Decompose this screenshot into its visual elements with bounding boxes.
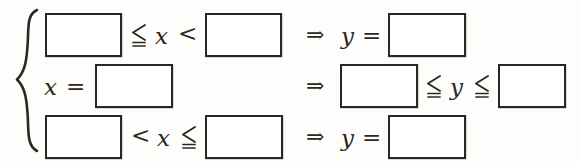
- row1-implies-arrow: ⇒: [306, 24, 324, 46]
- row1-variable-y: y: [341, 25, 354, 48]
- row3-relation-right: [180, 124, 197, 150]
- row1-relation-left: [130, 22, 147, 48]
- row2-x-value-blank[interactable]: [95, 64, 173, 108]
- row2-relation-left: [425, 73, 442, 99]
- row2-relation-right: [473, 73, 490, 99]
- row3-relation-left: <: [131, 124, 150, 147]
- row1-variable-x: x: [155, 25, 168, 48]
- piecewise-row-3: < x ⇒ y =: [0, 106, 579, 160]
- row3-variable-y: y: [341, 127, 354, 150]
- row2-lower-bound-blank[interactable]: [340, 64, 418, 108]
- row1-relation-right: <: [178, 22, 197, 45]
- piecewise-row-1: x < ⇒ y =: [0, 4, 579, 58]
- row3-implies-arrow: ⇒: [306, 126, 324, 148]
- row3-equals-sign: =: [362, 126, 381, 149]
- row3-lower-bound-blank[interactable]: [45, 115, 122, 159]
- row2-equals-sign: =: [66, 75, 85, 98]
- leq-double-icon: [130, 22, 147, 48]
- row2-variable-y: y: [450, 76, 463, 99]
- row1-lower-bound-blank[interactable]: [45, 13, 122, 57]
- row1-result-blank[interactable]: [388, 13, 466, 57]
- row2-implies-arrow: ⇒: [306, 75, 324, 97]
- row1-upper-bound-blank[interactable]: [205, 13, 282, 57]
- leq-double-icon: [473, 73, 490, 99]
- row1-equals-sign: =: [362, 24, 381, 47]
- row2-variable-x: x: [44, 76, 57, 99]
- row3-variable-x: x: [157, 127, 170, 150]
- row3-upper-bound-blank[interactable]: [205, 115, 283, 159]
- row2-upper-bound-blank[interactable]: [498, 64, 566, 108]
- piecewise-row-2: x = ⇒ y: [0, 55, 579, 109]
- piecewise-definition-worksheet: x < ⇒ y = x = ⇒ y: [0, 0, 579, 162]
- row3-result-blank[interactable]: [388, 115, 466, 159]
- leq-double-icon: [180, 124, 197, 150]
- leq-double-icon: [425, 73, 442, 99]
